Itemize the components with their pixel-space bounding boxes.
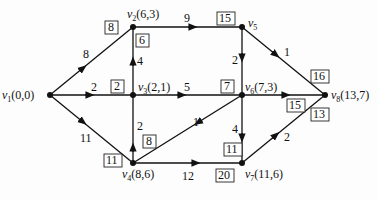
node-v5 [239, 24, 245, 30]
svg-text:7: 7 [224, 79, 230, 93]
node-label-v8: v8(13,7) [331, 88, 369, 104]
weight-v3-v2: 4 [137, 54, 143, 68]
node-label-v1: v1(0,0) [2, 88, 34, 104]
boxed-label: 6 [136, 33, 149, 47]
node-v4 [130, 160, 136, 166]
svg-text:8: 8 [146, 134, 152, 148]
weight-v3-v6: 5 [184, 80, 190, 94]
weight-v6-v7: 4 [232, 122, 238, 136]
node-v8 [322, 92, 328, 98]
boxed-label: 13 [311, 107, 329, 121]
weight-v2-v5: 9 [184, 11, 190, 25]
weight-v1-v2: 8 [83, 47, 89, 61]
node-v2 [130, 24, 136, 30]
svg-text:11: 11 [226, 142, 238, 156]
weight-v6-v4: 1 [193, 115, 199, 129]
svg-text:8: 8 [108, 20, 114, 34]
svg-text:11: 11 [106, 153, 118, 167]
boxed-label: 15 [217, 11, 235, 25]
svg-text:15: 15 [289, 98, 301, 112]
boxed-label: 7 [221, 79, 234, 93]
node-v1 [47, 92, 53, 98]
svg-text:2: 2 [114, 79, 120, 93]
node-label-v4: v4(8,6) [122, 167, 154, 183]
weight-v1-v4: 11 [80, 131, 92, 145]
node-label-v5: v5 [248, 16, 257, 32]
network-diagram: v1(0,0) v2(6,3) v3(2,1) v4(8,6) v5 v6(7,… [0, 0, 377, 200]
boxed-label: 8 [105, 20, 118, 34]
svg-text:20: 20 [218, 168, 230, 182]
boxed-label: 15 [287, 98, 305, 112]
svg-text:13: 13 [313, 107, 325, 121]
weight-v5-v6: 2 [232, 53, 238, 67]
arrow-icon [272, 52, 276, 55]
svg-text:15: 15 [219, 11, 231, 25]
node-label-v7: v7(11,6) [245, 167, 283, 183]
boxed-label: 2 [111, 79, 124, 93]
boxed-label: 8 [143, 134, 156, 148]
weight-v4-v3: 2 [137, 119, 143, 133]
node-label-v3: v3(2,1) [138, 80, 170, 96]
svg-text:6: 6 [139, 33, 145, 47]
node-label-v2: v2(6,3) [127, 7, 159, 23]
weight-v4-v7: 12 [182, 169, 194, 183]
weight-v7-v8: 2 [284, 130, 290, 144]
arrow-icon [272, 135, 276, 138]
weight-v5-v8: 1 [284, 45, 290, 59]
node-v7 [239, 160, 245, 166]
boxed-label: 11 [224, 142, 242, 156]
svg-text:16: 16 [313, 69, 325, 83]
node-v3 [130, 92, 136, 98]
weight-v1-v3: 2 [91, 80, 97, 94]
boxed-label: 16 [311, 69, 329, 83]
boxed-label: 11 [104, 153, 122, 167]
edge-v7-v8 [242, 95, 325, 163]
node-label-v6: v6(7,3) [245, 80, 277, 96]
edge-v1-v4 [50, 95, 133, 163]
boxed-label: 20 [216, 168, 234, 182]
